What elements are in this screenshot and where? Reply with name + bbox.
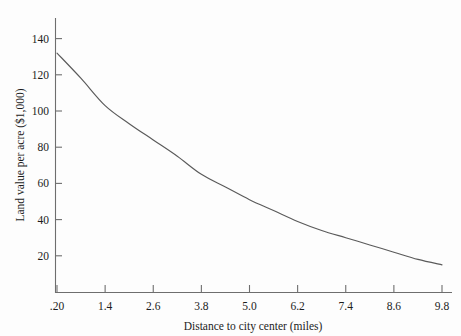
y-tick-label: 20: [38, 250, 50, 262]
y-tick-label: 120: [32, 69, 50, 81]
x-tick-label: 8.6: [387, 300, 402, 312]
chart-figure: 20406080100120140 .201.42.63.85.06.27.48…: [0, 0, 461, 336]
y-tick-label: 140: [32, 33, 50, 45]
x-tick-label: 9.8: [435, 300, 450, 312]
x-tick-label: 6.2: [290, 300, 305, 312]
x-tick-label: 2.6: [146, 300, 161, 312]
x-axis-ticks: .201.42.63.85.06.27.48.69.8: [50, 285, 450, 312]
y-axis-ticks: 20406080100120140: [32, 33, 62, 262]
x-tick-label: 1.4: [98, 300, 113, 312]
land-value-curve: [57, 53, 442, 265]
x-tick-label: .20: [50, 300, 65, 312]
x-tick-label: 5.0: [242, 300, 257, 312]
y-tick-label: 40: [38, 214, 50, 226]
y-tick-label: 60: [38, 177, 50, 189]
x-tick-label: 3.8: [194, 300, 209, 312]
line-chart-plot: 20406080100120140 .201.42.63.85.06.27.48…: [0, 0, 461, 336]
x-tick-label: 7.4: [339, 300, 354, 312]
y-tick-label: 100: [32, 105, 50, 117]
y-tick-label: 80: [38, 141, 50, 153]
y-axis-title: Land value per acre ($1,000): [14, 88, 27, 221]
x-axis-title: Distance to city center (miles): [184, 320, 323, 333]
